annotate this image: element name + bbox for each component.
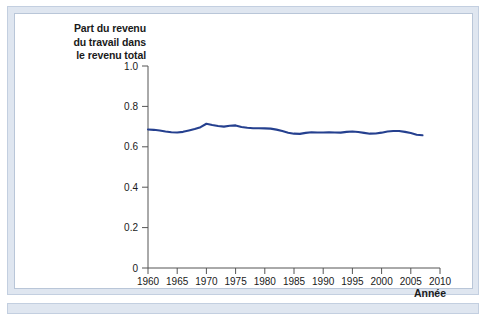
x-tick-label: 2005 xyxy=(400,276,423,287)
y-tick-label: 0.4 xyxy=(124,182,138,193)
figure-root: Part du revenu du travail dans le revenu… xyxy=(0,0,486,321)
x-tick-label: 1995 xyxy=(341,276,364,287)
x-axis-label: Année xyxy=(414,287,446,299)
x-tick-label: 1990 xyxy=(312,276,335,287)
x-tick-label: 2000 xyxy=(370,276,393,287)
y-tick-label: 0 xyxy=(132,263,138,274)
x-tick-label: 1980 xyxy=(254,276,277,287)
y-tick-label: 0.8 xyxy=(124,101,138,112)
line-chart: 00.20.40.60.81.0 19601965197019751980198… xyxy=(0,0,486,321)
x-tick-label: 1960 xyxy=(137,276,160,287)
x-tick-label: 1965 xyxy=(166,276,189,287)
x-tick-label: 1975 xyxy=(224,276,247,287)
y-tick-label: 1.0 xyxy=(124,61,138,72)
x-tick-label: 2010 xyxy=(429,276,452,287)
data-series-layer xyxy=(148,124,422,136)
x-axis: 1960196519701975198019851990199520002005… xyxy=(137,268,452,287)
x-tick-label: 1985 xyxy=(283,276,306,287)
y-tick-label: 0.6 xyxy=(124,141,138,152)
y-axis: 00.20.40.60.81.0 xyxy=(124,61,148,274)
y-tick-label: 0.2 xyxy=(124,222,138,233)
series-line xyxy=(148,124,422,136)
x-tick-label: 1970 xyxy=(195,276,218,287)
